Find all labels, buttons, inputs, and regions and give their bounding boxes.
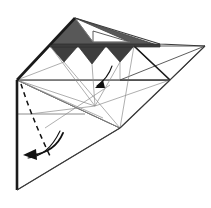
main-arrow-label-text: large fold-over arrow bbox=[4, 72, 87, 82]
small-arrow-label-text: small fold arrow bbox=[4, 82, 68, 92]
zigzag-label-text: sawtooth pleated edge bbox=[4, 22, 95, 32]
dashed-fold-label-text: valley fold line bbox=[4, 62, 61, 72]
white-top-flap-label-text: white top triangular flap bbox=[3, 32, 97, 42]
shaded-band-label-text: shaded back-side band bbox=[4, 12, 97, 22]
left-apex-label-text: left corner apex bbox=[4, 52, 67, 62]
origami-diagram-figure: Origami folding diagram step shaded back… bbox=[0, 0, 211, 208]
figure-title-text: Origami folding diagram step bbox=[4, 2, 119, 12]
origami-diagram-canvas: Origami folding diagram step shaded back… bbox=[0, 0, 211, 208]
right-flap-label-text: right downward triangular flap bbox=[4, 42, 122, 52]
